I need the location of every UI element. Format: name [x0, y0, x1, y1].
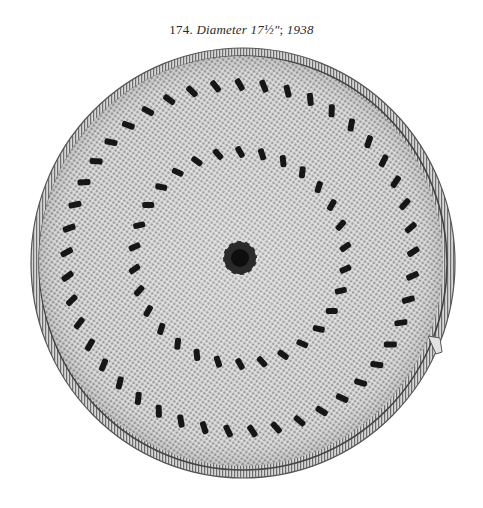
center-knot: [223, 241, 257, 275]
basket-photo: [0, 0, 483, 508]
